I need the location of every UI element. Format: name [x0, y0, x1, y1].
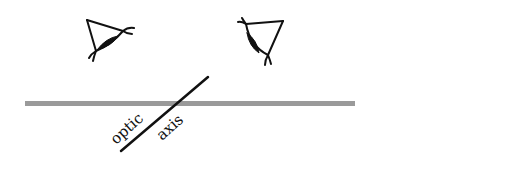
axis-label: axis — [153, 111, 187, 144]
optic-axis-diagram: optic axis — [0, 0, 510, 169]
crystal-plate — [25, 101, 355, 106]
optic-label: optic — [107, 109, 147, 148]
right-eye-icon — [238, 18, 283, 65]
left-eye-icon — [87, 20, 134, 61]
